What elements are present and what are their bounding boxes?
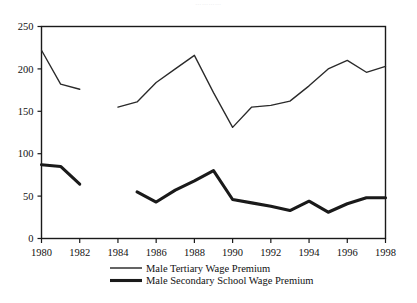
x-tick-label: 1994 xyxy=(299,247,321,258)
chart-figure: ………… 050100150200250 1980198219841986198… xyxy=(0,0,417,303)
x-tick-label: 1986 xyxy=(146,247,167,258)
series-line xyxy=(118,55,386,127)
x-tick-label: 1992 xyxy=(260,247,281,258)
legend-label-tertiary: Male Tertiary Wage Premium xyxy=(146,263,270,274)
x-tick-label: 1996 xyxy=(337,247,358,258)
y-tick-label: 150 xyxy=(18,106,34,117)
y-tick-label: 250 xyxy=(18,21,34,32)
data-series-layer xyxy=(42,50,386,212)
y-tick-label: 200 xyxy=(18,64,34,75)
series-line xyxy=(42,50,80,89)
series-line xyxy=(42,165,80,185)
legend-label-secondary: Male Secondary School Wage Premium xyxy=(146,275,314,286)
y-tick-label: 50 xyxy=(23,191,34,202)
x-tick-label: 1980 xyxy=(31,247,52,258)
x-tick-label: 1988 xyxy=(184,247,205,258)
chart-legend: Male Tertiary Wage PremiumMale Secondary… xyxy=(110,263,314,287)
x-tick-label: 1982 xyxy=(69,247,90,258)
y-axis-tick-labels: 050100150200250 xyxy=(18,21,34,244)
x-tick-label: 1984 xyxy=(107,247,129,258)
x-tick-label: 1990 xyxy=(222,247,243,258)
line-chart: 050100150200250 198019821984198619881990… xyxy=(0,0,417,303)
x-tick-label: 1998 xyxy=(375,247,396,258)
y-tick-label: 0 xyxy=(28,233,33,244)
plot-frame xyxy=(42,27,386,239)
faint-top-text: ………… xyxy=(0,0,417,6)
series-line xyxy=(137,171,385,213)
x-axis-tick-labels: 1980198219841986198819901992199419961998 xyxy=(31,247,396,258)
y-tick-label: 100 xyxy=(18,148,34,159)
